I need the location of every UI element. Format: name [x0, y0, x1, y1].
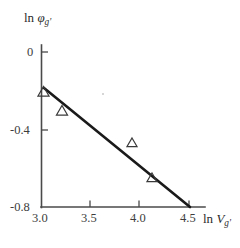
data-point-marker [127, 138, 137, 147]
x-axis-label: ln Vg' [203, 212, 231, 228]
x-tick-label-4-0: 4.0 [130, 212, 146, 225]
y-axis-label-text: ln φ [24, 10, 45, 25]
fit-line [44, 88, 190, 207]
x-axis-label-text: ln V [203, 211, 224, 226]
x-axis-label-subscript: g' [224, 218, 231, 228]
y-tick-label-minus-0-4: -0.4 [10, 124, 30, 137]
chart-figure: ln φg' 0 -0.4 -0.8 3.0 3.5 4.0 4.5 ln Vg… [0, 0, 240, 248]
y-tick-label-minus-0-8: -0.8 [10, 201, 30, 214]
y-axis-label-subscript: g' [45, 17, 52, 27]
x-tick-label-4-5: 4.5 [180, 212, 196, 225]
x-tick-label-3-0: 3.0 [32, 212, 48, 225]
y-axis-label: ln φg' [24, 11, 51, 27]
x-tick-label-3-5: 3.5 [81, 212, 97, 225]
y-tick-label-0: 0 [27, 46, 33, 59]
scan-speck [102, 93, 104, 95]
